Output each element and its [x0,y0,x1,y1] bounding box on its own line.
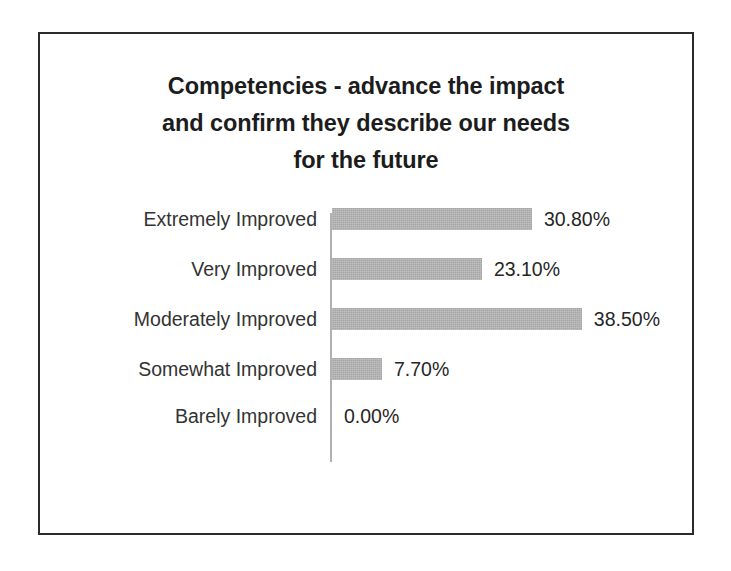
bar-row: Extremely Improved 30.80% [40,194,692,244]
plot-area: Extremely Improved 30.80% Very Improved … [40,181,692,481]
bar-row: Barely Improved 0.00% [40,391,692,441]
bar-track: 38.50% [332,294,692,344]
bar-value-barely-improved: 0.00% [344,391,399,441]
bar-very-improved [332,258,482,280]
bar-extremely-improved [332,208,532,230]
chart-title-line-2: and confirm they describe our needs [40,105,692,142]
bar-row: Very Improved 23.10% [40,244,692,294]
bar-somewhat-improved [332,358,382,380]
bar-moderately-improved [332,308,582,330]
bar-value-very-improved: 23.10% [494,244,560,294]
bar-value-moderately-improved: 38.50% [594,294,660,344]
bar-value-extremely-improved: 30.80% [544,194,610,244]
chart-title: Competencies - advance the impact and co… [40,68,692,179]
category-label-somewhat-improved: Somewhat Improved [40,344,317,394]
bar-row: Moderately Improved 38.50% [40,294,692,344]
category-label-very-improved: Very Improved [40,244,317,294]
chart-title-line-1: Competencies - advance the impact [40,68,692,105]
chart-title-line-3: for the future [40,142,692,179]
bar-track: 0.00% [332,391,692,441]
bar-value-somewhat-improved: 7.70% [394,344,449,394]
bar-row: Somewhat Improved 7.70% [40,344,692,394]
bar-track: 23.10% [332,244,692,294]
bar-track: 30.80% [332,194,692,244]
category-label-extremely-improved: Extremely Improved [40,194,317,244]
bar-track: 7.70% [332,344,692,394]
category-label-barely-improved: Barely Improved [40,391,317,441]
chart-frame: Competencies - advance the impact and co… [38,32,694,535]
category-label-moderately-improved: Moderately Improved [40,294,317,344]
